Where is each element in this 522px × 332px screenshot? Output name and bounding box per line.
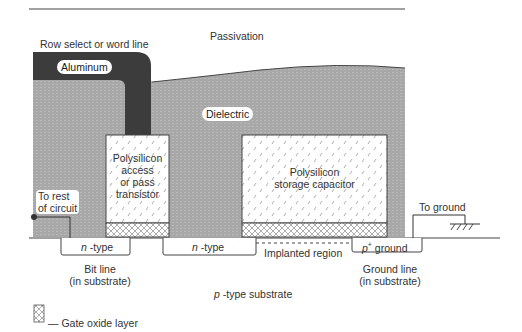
bit-line-label: Bit line (in substrate) <box>55 263 145 287</box>
implanted-region-label: Implanted region <box>264 247 342 259</box>
p-plus-ground-label: p+ ground <box>362 239 408 254</box>
gate-oxide-transistor <box>106 223 169 237</box>
word-line-label: Row select or word line <box>40 38 149 50</box>
dielectric-label: Dielectric <box>202 107 253 121</box>
access-transistor-label: Polysilicon access or pass transistor <box>106 152 169 200</box>
passivation-label: Passivation <box>210 30 264 42</box>
storage-capacitor-label: Polysilicon storage capacitor <box>242 166 387 190</box>
to-ground-label: To ground <box>419 201 466 213</box>
n-type-label-1: n -type <box>81 241 113 253</box>
gate-oxide-legend-swatch <box>34 305 44 322</box>
to-rest-of-circuit-label: To rest of circuit <box>36 190 79 214</box>
n-type-label-2: n -type <box>192 241 224 253</box>
gate-oxide-legend-label: — Gate oxide layer <box>48 317 138 329</box>
ground-symbol-icon <box>451 224 473 230</box>
substrate-label: p -type substrate <box>214 288 292 300</box>
ground-line-label: Ground line (in substrate) <box>350 263 430 287</box>
aluminum-label: Aluminum <box>57 60 112 74</box>
gate-oxide-capacitor <box>242 223 387 237</box>
